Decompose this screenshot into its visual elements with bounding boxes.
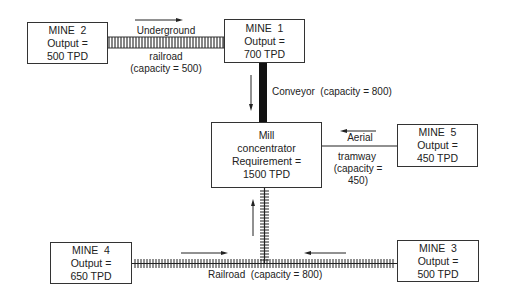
mill-subtitle: concentrator <box>237 142 295 155</box>
conveyor-label: Conveyor (capacity = 800) <box>272 86 392 98</box>
aerial-capacity-value: 450) <box>340 175 376 187</box>
mine-2-output-value: 500 TPD <box>47 50 88 63</box>
underground-label: Underground <box>130 25 202 37</box>
mine-4-output-value: 650 TPD <box>70 270 111 283</box>
aerial-capacity-label: (capacity = <box>328 163 388 175</box>
aerial-label: Aerial <box>340 132 380 144</box>
arrow-up-icon <box>251 199 255 236</box>
mine-5-title: MINE 5 <box>419 126 457 139</box>
mine-3-title: MINE 3 <box>419 242 457 255</box>
arrow-right-icon <box>135 18 183 22</box>
mine-2-node: MINE 2 Output = 500 TPD <box>27 22 108 64</box>
mine-2-title: MINE 2 <box>49 24 87 37</box>
underground-railroad-label: railroad <box>128 51 204 63</box>
mill-title: Mill <box>259 129 275 142</box>
mine-1-title: MINE 1 <box>246 22 284 35</box>
conveyor-belt <box>259 62 267 122</box>
mill-requirement-label: Requirement = <box>232 155 301 168</box>
mine-2-output-label: Output = <box>47 37 88 50</box>
underground-railroad <box>107 37 224 48</box>
mine-4-title: MINE 4 <box>72 244 110 257</box>
railroad-capacity-label: Railroad (capacity = 800) <box>208 269 322 281</box>
underground-capacity-label: (capacity = 500) <box>120 63 212 75</box>
arrow-left-icon <box>304 251 346 255</box>
mine-1-node: MINE 1 Output = 700 TPD <box>224 19 305 63</box>
mine-3-output-value: 500 TPD <box>417 268 458 281</box>
mine-5-output-value: 450 TPD <box>417 152 458 165</box>
mill-concentrator-node: Mill concentrator Requirement = 1500 TPD <box>211 122 322 188</box>
mine-1-output-value: 700 TPD <box>244 48 285 61</box>
mine-4-output-label: Output = <box>71 257 112 270</box>
railroad-vertical <box>260 187 269 263</box>
mine-5-output-label: Output = <box>417 139 458 152</box>
mine-4-node: MINE 4 Output = 650 TPD <box>50 242 132 284</box>
arrow-right-icon <box>181 251 228 255</box>
railroad-horizontal <box>132 259 397 268</box>
mill-requirement-value: 1500 TPD <box>243 168 290 181</box>
tramway-label: tramway <box>332 151 382 163</box>
arrow-down-icon <box>249 75 253 111</box>
mine-3-output-label: Output = <box>418 255 459 268</box>
mine-1-output-label: Output = <box>244 35 285 48</box>
mine-5-node: MINE 5 Output = 450 TPD <box>397 124 478 167</box>
mine-3-node: MINE 3 Output = 500 TPD <box>397 240 479 282</box>
